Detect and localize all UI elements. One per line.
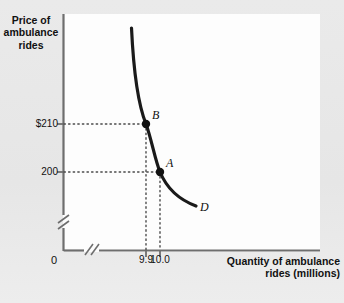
origin-label: 0 [47, 254, 61, 266]
demand-curve [132, 28, 197, 206]
x-axis-title-line-1: Quantity of ambulance [200, 255, 340, 267]
data-point-b [142, 120, 150, 128]
y-axis-break-icon [58, 215, 69, 229]
point-label-a: A [166, 156, 173, 171]
data-point-a [156, 168, 164, 176]
curve-label-d: D [200, 200, 209, 215]
figure-container: Price of ambulance rides Quantity of amb… [0, 0, 344, 303]
y-tick-label-200: 200 [16, 166, 58, 177]
point-label-b: B [152, 108, 159, 123]
y-axis-title-line-2: ambulance [2, 26, 60, 38]
x-axis-title-line-2: rides (millions) [200, 267, 340, 279]
y-axis-title: Price of ambulance rides [2, 14, 60, 51]
y-tick-label-210: $210 [16, 118, 58, 129]
x-axis-title: Quantity of ambulance rides (millions) [200, 255, 340, 280]
y-axis-title-line-3: rides [2, 39, 60, 51]
x-tick-label-10-0: 10.0 [145, 254, 175, 265]
x-axis-break-icon [85, 244, 99, 255]
y-axis-title-line-1: Price of [2, 14, 60, 26]
